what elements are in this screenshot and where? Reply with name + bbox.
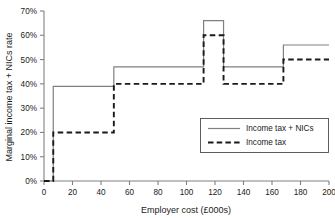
- legend-label-income-tax: Income tax: [246, 138, 286, 147]
- x-tick-label: 40: [96, 188, 106, 197]
- x-tick-label: 60: [125, 188, 135, 197]
- y-axis-label: Marginal income tax + NICs rate: [4, 33, 14, 162]
- x-tick-label: 160: [265, 188, 279, 197]
- x-tick-label: 80: [153, 188, 163, 197]
- x-tick-label: 100: [180, 188, 194, 197]
- series-income-tax-plus-nics: [44, 21, 329, 181]
- chart-container: Marginal income tax + NICs rate Employer…: [0, 0, 335, 218]
- x-tick-label: 200: [322, 188, 335, 197]
- x-axis-ticks: 020406080100120140160180200: [42, 181, 335, 197]
- y-axis-ticks: 0%10%20%30%40%50%60%70%: [21, 7, 44, 186]
- y-tick-label: 60%: [21, 31, 37, 40]
- y-tick-label: 10%: [21, 153, 37, 162]
- y-tick-label: 30%: [21, 104, 37, 113]
- x-tick-label: 180: [294, 188, 308, 197]
- marginal-tax-rate-chart: Marginal income tax + NICs rate Employer…: [0, 0, 335, 218]
- y-tick-label: 40%: [21, 80, 37, 89]
- y-tick-label: 70%: [21, 7, 37, 16]
- x-axis-label: Employer cost (£000s): [141, 205, 231, 215]
- x-tick-label: 140: [237, 188, 251, 197]
- x-tick-label: 20: [68, 188, 78, 197]
- y-tick-label: 50%: [21, 56, 37, 65]
- y-tick-label: 20%: [21, 128, 37, 137]
- legend-label-income-tax-plus-nics: Income tax + NICs: [246, 124, 314, 133]
- x-tick-label: 120: [208, 188, 222, 197]
- x-tick-label: 0: [42, 188, 47, 197]
- chart-legend: Income tax + NICs Income tax: [201, 119, 329, 153]
- series-income-tax: [44, 35, 329, 181]
- y-tick-label: 0%: [25, 177, 37, 186]
